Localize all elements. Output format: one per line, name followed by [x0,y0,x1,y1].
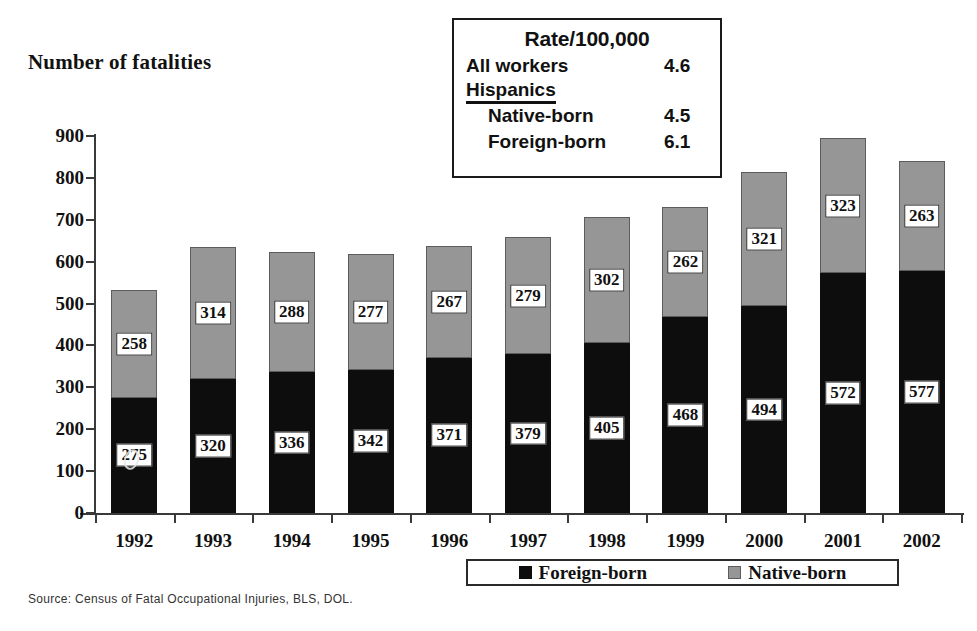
bar-value-label: 258 [117,332,153,355]
bar-value-label: 323 [825,194,861,217]
bar-group: 275258 [111,290,157,513]
x-axis-tick-mark [331,513,333,523]
x-axis-tick-mark [804,513,806,523]
bar-value-label: 468 [668,404,704,427]
bar-segment-foreign-born: 494 [741,306,787,513]
bar-group: 379279 [505,237,551,513]
legend-label: Native-born [748,562,846,584]
rate-label-native-born: Native-born [488,105,594,127]
bar-value-label: 379 [510,422,546,445]
legend-swatch-native [728,566,741,579]
bar-segment-foreign-born: 405 [584,343,630,513]
bar-group: 320314 [190,247,236,513]
bar-segment-foreign-born: 468 [662,317,708,513]
bar-segment-native-born: 263 [899,161,945,271]
rate-row-native-born: Native-born 4.5 [454,105,720,127]
y-axis-tick-label: 800 [56,167,85,189]
x-axis-tick-label: 1995 [352,530,390,552]
x-axis-tick-label: 1998 [588,530,626,552]
y-axis-tick-label: 400 [56,334,85,356]
bar-segment-foreign-born: 572 [820,273,866,513]
rate-subheading-hispanics: Hispanics [454,79,720,101]
y-axis-tick-mark [86,219,95,221]
bar-segment-native-born: 279 [505,237,551,354]
rate-value-all-workers: 4.6 [664,55,706,77]
bar-group: 342277 [348,254,394,513]
bar-segment-native-born: 302 [584,217,630,344]
bar-segment-native-born: 321 [741,172,787,306]
y-axis-tick-label: 600 [56,251,85,273]
bar-value-label: 494 [746,398,782,421]
x-axis-tick-label: 2001 [824,530,862,552]
bar-group: 468262 [662,207,708,513]
source-note: Source: Census of Fatal Occupational Inj… [28,592,353,606]
bar-segment-native-born: 288 [269,252,315,373]
x-axis-tick-label: 1999 [666,530,704,552]
x-axis-tick-mark [252,513,254,523]
bar-value-label: 277 [353,300,389,323]
rate-subheading-text: Hispanics [466,79,556,104]
legend-entry: Foreign-born [519,562,647,584]
x-axis-tick-label: 2000 [745,530,783,552]
y-axis-tick-mark [86,135,95,137]
y-axis-tick-mark [86,428,95,430]
bar-group: 577263 [899,161,945,513]
y-axis-tick-label: 300 [56,376,85,398]
y-axis-tick-label: 200 [56,418,85,440]
bar-value-label: 342 [353,430,389,453]
x-axis-tick-mark [174,513,176,523]
legend-label: Foreign-born [539,562,647,584]
bar-segment-native-born: 262 [662,207,708,317]
bar-segment-native-born: 277 [348,254,394,370]
bar-value-label: 288 [274,301,310,324]
bar-value-label: 320 [195,435,231,458]
x-axis-tick-label: 2002 [903,530,941,552]
page-title: Number of fatalities [28,50,211,75]
bar-group: 494321 [741,172,787,513]
y-axis-tick-mark [86,386,95,388]
y-axis-tick-label: 0 [75,502,85,524]
bar-segment-foreign-born: 577 [899,271,945,513]
rate-box-title: Rate/100,000 [454,27,720,51]
bar-value-label: 279 [510,284,546,307]
bar-value-label: 321 [746,227,782,250]
bar-segment-foreign-born: 320 [190,379,236,513]
y-axis-tick-mark [86,512,95,514]
bar-segment-foreign-born: 379 [505,354,551,513]
bar-segment-native-born: 258 [111,290,157,398]
y-axis-tick-labels: 9008007006005004003002001000 [34,136,84,513]
bar-segment-foreign-born: 275 [111,398,157,513]
bar-value-label: 302 [589,269,625,292]
bar-value-label: 262 [668,251,704,274]
x-axis-tick-label: 1993 [194,530,232,552]
chart-page: Number of fatalities Rate/100,000 All wo… [0,0,977,631]
bar-segment-native-born: 314 [190,247,236,379]
y-axis-tick-label: 900 [56,125,85,147]
legend-entry: Native-born [728,562,846,584]
bar-value-label: 336 [274,431,310,454]
x-axis-tick-label: 1992 [115,530,153,552]
y-axis-tick-label: 700 [56,209,85,231]
x-axis-tick-label: 1996 [430,530,468,552]
bar-value-label: 405 [589,417,625,440]
y-axis-tick-label: 100 [56,460,85,482]
plot-area: 2752583203143362883422773712673792794053… [95,136,961,513]
y-axis-tick-mark [86,177,95,179]
x-axis-tick-label: 1994 [273,530,311,552]
x-axis-tick-mark [489,513,491,523]
bar-value-label: 267 [432,290,468,313]
y-axis-tick-mark [86,303,95,305]
y-axis-tick-mark [86,261,95,263]
bar-segment-foreign-born: 342 [348,370,394,513]
bar-value-label: 314 [195,302,231,325]
x-axis-tick-mark [882,513,884,523]
x-axis-tick-mark [567,513,569,523]
x-axis-line [80,513,964,515]
bar-segment-native-born: 267 [426,246,472,358]
x-axis-tick-mark [961,513,963,523]
bar-group: 405302 [584,217,630,513]
bar-segment-foreign-born: 336 [269,372,315,513]
rate-value-native-born: 4.5 [664,105,706,127]
bar-group: 336288 [269,252,315,513]
x-axis-tick-mark [95,513,97,523]
